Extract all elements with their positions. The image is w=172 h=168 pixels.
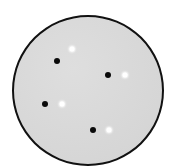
black-dot	[90, 127, 96, 133]
white-dot	[107, 128, 112, 133]
black-dot	[42, 101, 48, 107]
white-dot	[70, 47, 75, 52]
white-dot	[123, 73, 128, 78]
white-dot	[60, 102, 65, 107]
black-dot	[54, 58, 60, 64]
black-dot	[105, 72, 111, 78]
circular-field	[12, 15, 164, 166]
